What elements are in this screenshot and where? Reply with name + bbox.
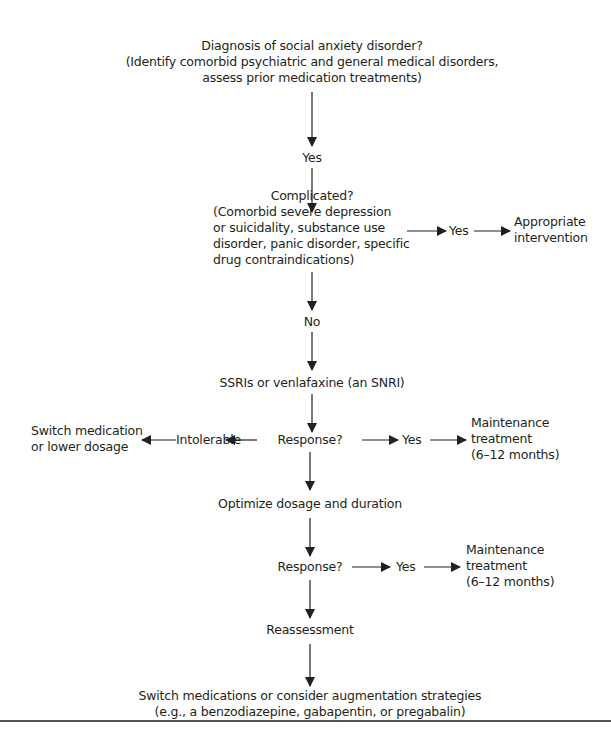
complicated-detail-1: (Comorbid severe depression	[213, 204, 410, 220]
node-switch-or-lower: Switch medication or lower dosage	[31, 423, 143, 455]
diagnosis-detail-1: (Identify comorbid psychiatric and gener…	[112, 54, 512, 70]
maintenance-1-line-2: treatment	[471, 431, 559, 447]
final-line-1: Switch medications or consider augmentat…	[80, 688, 540, 704]
node-final: Switch medications or consider augmentat…	[80, 688, 540, 720]
node-response-1: Response?	[260, 432, 360, 448]
node-yes-diagnosis: Yes	[282, 150, 342, 166]
switch-line-2: or lower dosage	[31, 439, 143, 455]
node-complicated-title: Complicated?	[212, 188, 412, 204]
bottom-rule	[0, 720, 611, 722]
node-yes-complicated: Yes	[449, 223, 469, 239]
node-ssri: SSRIs or venlafaxine (an SNRI)	[162, 375, 462, 391]
intervention-line-1: Appropriate	[514, 214, 588, 230]
maintenance-2-line-1: Maintenance	[466, 542, 554, 558]
maintenance-2-line-2: treatment	[466, 558, 554, 574]
maintenance-2-line-3: (6–12 months)	[466, 574, 554, 590]
intervention-line-2: intervention	[514, 230, 588, 246]
diagnosis-question: Diagnosis of social anxiety disorder?	[112, 38, 512, 54]
node-maintenance-2: Maintenance treatment (6–12 months)	[466, 542, 554, 590]
maintenance-1-line-1: Maintenance	[471, 415, 559, 431]
complicated-detail-3: disorder, panic disorder, specific	[213, 236, 410, 252]
node-complicated-detail: (Comorbid severe depression or suicidali…	[213, 204, 410, 268]
complicated-detail-4: drug contraindications)	[213, 252, 410, 268]
diagnosis-detail-2: assess prior medication treatments)	[112, 70, 512, 86]
maintenance-1-line-3: (6–12 months)	[471, 447, 559, 463]
node-optimize: Optimize dosage and duration	[180, 496, 440, 512]
node-intolerable: Intolerable	[176, 432, 230, 448]
node-diagnosis: Diagnosis of social anxiety disorder? (I…	[112, 38, 512, 86]
node-maintenance-1: Maintenance treatment (6–12 months)	[471, 415, 559, 463]
node-yes-response-1: Yes	[402, 432, 422, 448]
complicated-detail-2: or suicidality, substance use	[213, 220, 410, 236]
node-no: No	[282, 314, 342, 330]
node-appropriate-intervention: Appropriate intervention	[514, 214, 588, 246]
switch-line-1: Switch medication	[31, 423, 143, 439]
final-line-2: (e.g., a benzodiazepine, gabapentin, or …	[80, 704, 540, 720]
node-response-2: Response?	[270, 559, 350, 575]
node-yes-response-2: Yes	[396, 559, 416, 575]
node-reassessment: Reassessment	[230, 622, 390, 638]
